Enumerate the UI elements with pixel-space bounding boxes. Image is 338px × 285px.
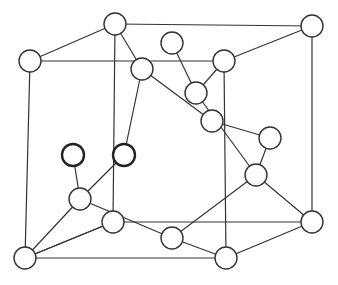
bond-line [224,61,226,258]
atom [185,82,207,104]
lattice-svg [0,0,338,285]
atom [215,247,237,269]
bond-line [25,61,30,258]
atom [161,32,183,54]
diamond-cubic-diagram [0,0,338,285]
bond-line [25,222,113,258]
highlighted-atom [62,144,84,166]
atoms-group [14,13,323,269]
atom [19,50,41,72]
atom [131,58,153,80]
highlighted-atom [113,144,135,166]
atom [161,227,183,249]
atom [245,164,267,186]
bond-line [115,24,312,26]
atom [259,127,281,149]
bond-line [30,24,115,61]
bond-line [196,93,256,175]
bond-line [224,26,312,61]
atom [69,188,91,210]
atom [102,211,124,233]
atom [104,13,126,35]
bond-line [25,199,80,258]
atom [213,50,235,72]
bond-line [172,175,256,238]
bond-line [124,69,142,155]
atom [201,110,223,132]
atom [301,211,323,233]
atom [301,15,323,37]
bond-line [113,24,115,222]
bond-line [226,222,312,258]
bond-line [80,199,172,238]
atom [14,247,36,269]
